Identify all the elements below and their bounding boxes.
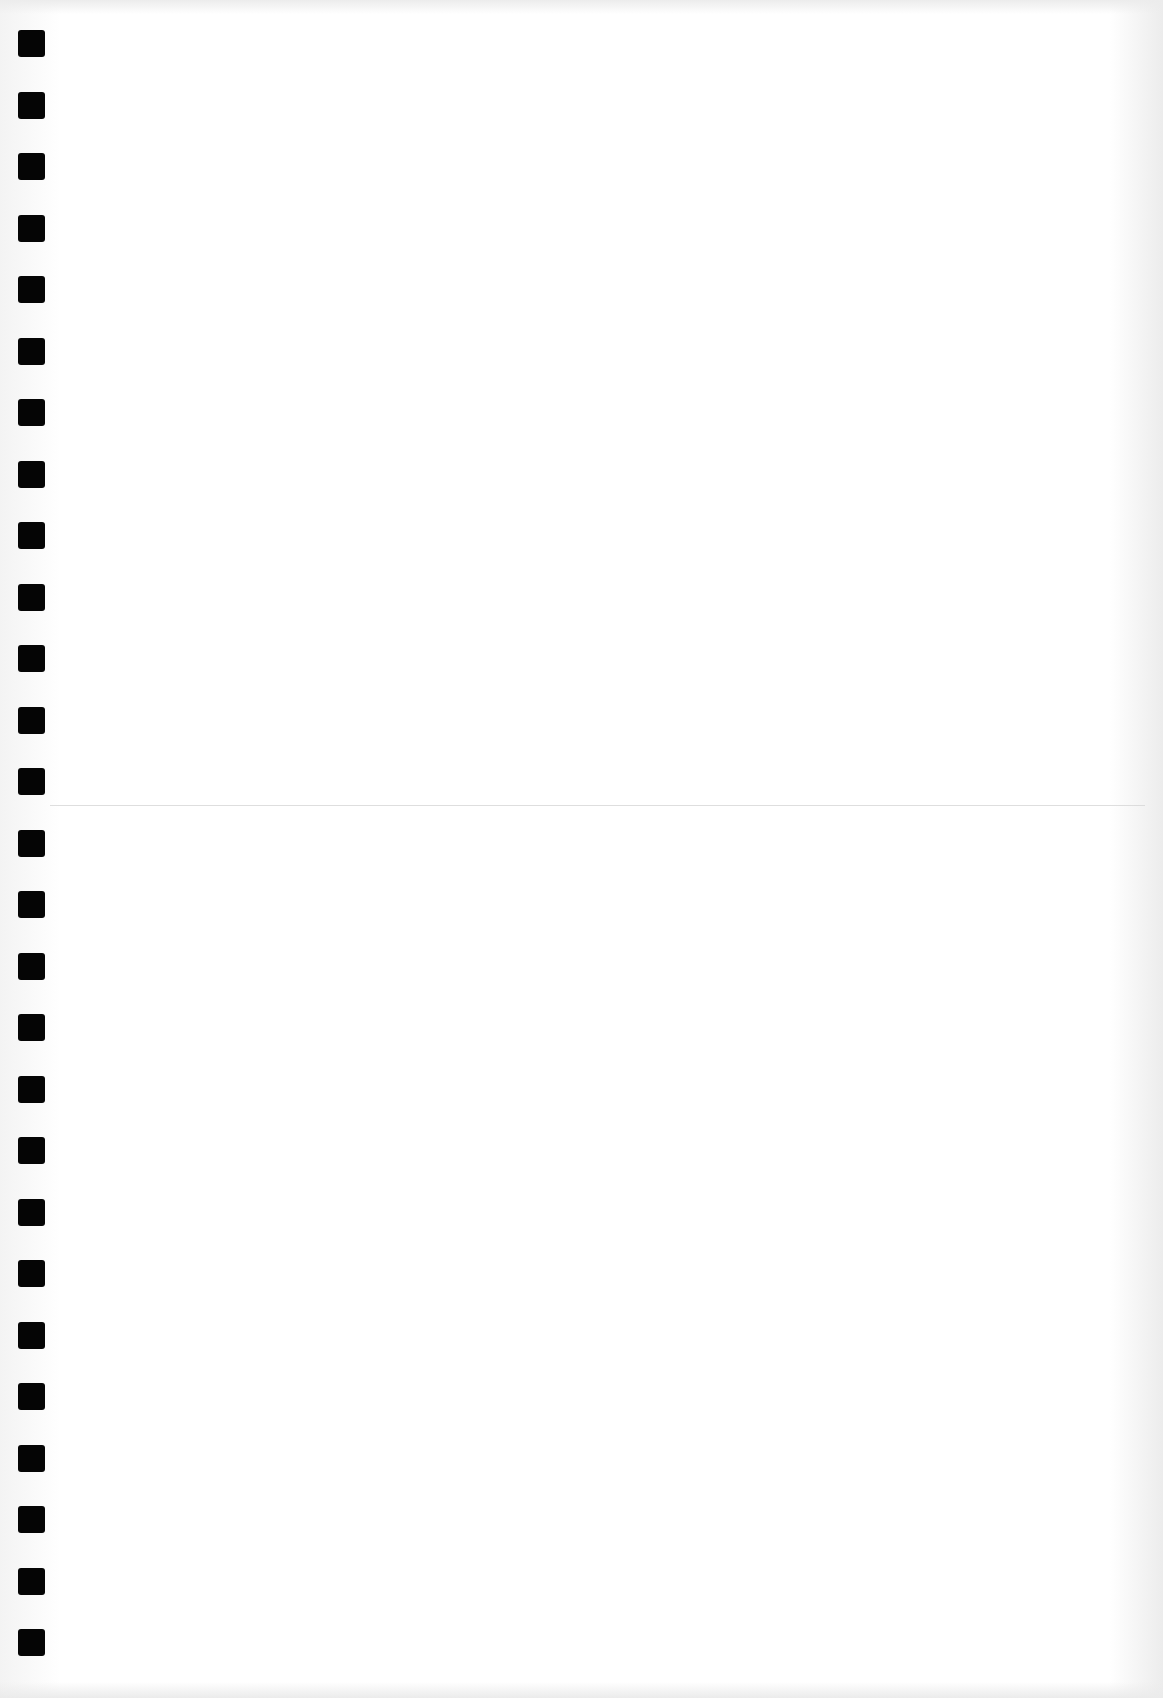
punch-hole [18, 92, 45, 119]
punch-hole [18, 1322, 45, 1349]
punch-hole [18, 584, 45, 611]
punch-hole [18, 1076, 45, 1103]
punch-hole [18, 1506, 45, 1533]
punch-hole [18, 768, 45, 795]
punch-hole-column [0, 0, 70, 1698]
punch-hole [18, 891, 45, 918]
blank-paper-sheet [0, 0, 1163, 1698]
punch-hole [18, 1629, 45, 1656]
punch-hole [18, 215, 45, 242]
punch-hole [18, 645, 45, 672]
punch-hole [18, 1260, 45, 1287]
punch-hole [18, 338, 45, 365]
punch-hole [18, 1199, 45, 1226]
punch-hole [18, 1137, 45, 1164]
punch-hole [18, 30, 45, 57]
punch-hole [18, 830, 45, 857]
punch-hole [18, 399, 45, 426]
punch-hole [18, 461, 45, 488]
punch-hole [18, 1383, 45, 1410]
punch-hole [18, 153, 45, 180]
punch-hole [18, 1445, 45, 1472]
punch-hole [18, 522, 45, 549]
punch-hole [18, 1568, 45, 1595]
fold-line [50, 805, 1145, 806]
punch-hole [18, 953, 45, 980]
punch-hole [18, 276, 45, 303]
punch-hole [18, 1014, 45, 1041]
punch-hole [18, 707, 45, 734]
